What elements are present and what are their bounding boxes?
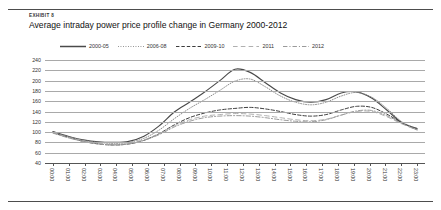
grid-line: [45, 122, 425, 123]
grid-line: [45, 112, 425, 113]
top-divider: [8, 9, 433, 10]
x-tick-label: 14:00: [271, 168, 277, 181]
y-tick-label: 180: [32, 88, 41, 94]
x-tick: [354, 163, 355, 166]
x-tick-label: 02:00: [81, 168, 87, 181]
legend-item-2012: 2012: [283, 43, 324, 49]
x-tick-label: 07:00: [160, 168, 166, 181]
legend-swatch-2012: [283, 44, 309, 49]
grid-line: [45, 70, 425, 71]
x-tick: [148, 163, 149, 166]
legend-item-2009-10: 2009-10: [176, 43, 225, 49]
legend-item-2000-05: 2000-05: [60, 43, 109, 49]
y-tick-label: 80: [35, 139, 41, 145]
chart-legend: 2000-052006-082009-1020112012: [60, 43, 324, 49]
x-tick: [69, 163, 70, 166]
legend-item-2006-08: 2006-08: [118, 43, 167, 49]
x-tick: [385, 163, 386, 166]
legend-swatch-2009-10: [176, 44, 202, 49]
x-tick: [85, 163, 86, 166]
x-tick: [275, 163, 276, 166]
legend-label: 2011: [262, 43, 274, 49]
grid-line: [45, 132, 425, 133]
x-tick: [53, 163, 54, 166]
exhibit-panel: EXHIBIT 8 Average intraday power price p…: [0, 0, 441, 210]
x-tick: [306, 163, 307, 166]
bottom-divider: [8, 201, 433, 202]
grid-line: [45, 81, 425, 82]
x-tick-label: 00:00: [49, 168, 55, 181]
y-tick-label: 60: [35, 150, 41, 156]
x-tick-label: 23:00: [413, 168, 419, 181]
legend-swatch-2006-08: [118, 44, 144, 49]
legend-label: 2012: [312, 43, 324, 49]
legend-label: 2006-08: [147, 43, 167, 49]
x-tick-label: 20:00: [366, 168, 372, 181]
legend-label: 2009-10: [205, 43, 225, 49]
x-tick-label: 06:00: [144, 168, 150, 181]
x-tick-label: 21:00: [382, 168, 388, 181]
x-tick-label: 05:00: [128, 168, 134, 181]
x-tick: [100, 163, 101, 166]
x-tick-label: 10:00: [207, 168, 213, 181]
x-tick-label: 04:00: [112, 168, 118, 181]
x-tick-label: 16:00: [302, 168, 308, 181]
y-tick-label: 200: [32, 78, 41, 84]
legend-item-2011: 2011: [233, 43, 274, 49]
y-axis-labels: 240220200180160140120100806040: [19, 60, 41, 163]
series-line-2012: [53, 110, 417, 145]
x-tick-label: 13:00: [255, 168, 261, 181]
plot-area: [45, 60, 425, 163]
grid-line: [45, 142, 425, 143]
y-tick-label: 220: [32, 67, 41, 73]
y-tick-label: 100: [32, 129, 41, 135]
x-tick: [227, 163, 228, 166]
legend-swatch-2011: [233, 44, 259, 49]
grid-line: [45, 101, 425, 102]
y-tick-label: 240: [32, 57, 41, 63]
x-tick: [211, 163, 212, 166]
x-tick-label: 01:00: [65, 168, 71, 181]
x-tick: [195, 163, 196, 166]
grid-line: [45, 153, 425, 154]
x-tick-label: 17:00: [318, 168, 324, 181]
legend-label: 2000-05: [89, 43, 109, 49]
grid-line: [45, 60, 425, 61]
x-tick: [116, 163, 117, 166]
x-axis-line: [45, 163, 425, 164]
x-tick: [243, 163, 244, 166]
grid-line: [45, 91, 425, 92]
x-tick-label: 09:00: [192, 168, 198, 181]
x-tick: [401, 163, 402, 166]
y-tick-label: 40: [35, 160, 41, 166]
x-tick: [322, 163, 323, 166]
y-tick-label: 160: [32, 98, 41, 104]
exhibit-label: EXHIBIT 8: [29, 13, 54, 18]
x-tick-label: 03:00: [97, 168, 103, 181]
y-tick-label: 120: [32, 119, 41, 125]
x-tick: [370, 163, 371, 166]
x-tick-label: 15:00: [287, 168, 293, 181]
x-tick: [164, 163, 165, 166]
x-tick-label: 19:00: [350, 168, 356, 181]
chart-title: Average intraday power price profile cha…: [29, 20, 287, 30]
x-tick-label: 08:00: [176, 168, 182, 181]
x-tick: [417, 163, 418, 166]
x-tick-label: 18:00: [334, 168, 340, 181]
x-tick: [180, 163, 181, 166]
x-tick-label: 11:00: [223, 168, 229, 181]
x-tick: [338, 163, 339, 166]
x-tick: [259, 163, 260, 166]
x-tick: [132, 163, 133, 166]
x-tick-label: 12:00: [239, 168, 245, 181]
x-tick-label: 22:00: [397, 168, 403, 181]
x-tick: [290, 163, 291, 166]
legend-swatch-2000-05: [60, 44, 86, 49]
y-tick-label: 140: [32, 109, 41, 115]
